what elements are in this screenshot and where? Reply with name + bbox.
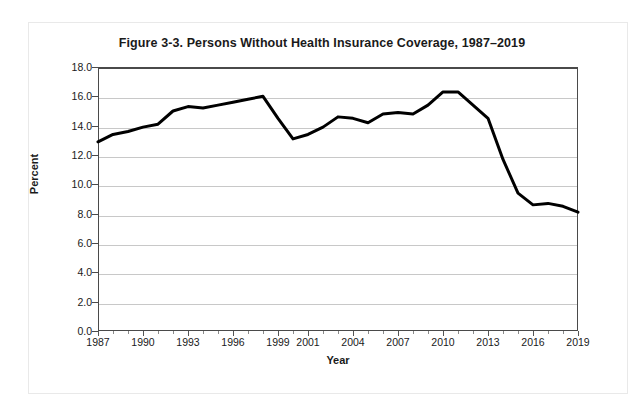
x-axis-tick-label: 2007 <box>374 336 422 348</box>
x-axis-tick-label: 2004 <box>329 336 377 348</box>
x-axis-tick-label: 1996 <box>209 336 257 348</box>
x-axis-minor-tick-mark <box>158 331 159 334</box>
x-axis-tick-label: 2019 <box>554 336 602 348</box>
x-axis-tick-label: 2013 <box>464 336 512 348</box>
y-axis-tick-label: 4.0 <box>52 266 92 278</box>
x-axis-minor-tick-mark <box>383 331 384 334</box>
data-series-line <box>98 67 578 331</box>
x-axis-tick-label: 2001 <box>284 336 332 348</box>
x-axis-tick-label: 1993 <box>164 336 212 348</box>
x-axis-minor-tick-mark <box>338 331 339 334</box>
x-axis-minor-tick-mark <box>323 331 324 334</box>
x-axis-minor-tick-mark <box>203 331 204 334</box>
y-axis-tick-label: 8.0 <box>52 208 92 220</box>
y-axis-tick-label: 12.0 <box>52 149 92 161</box>
x-axis-tick-label: 1990 <box>119 336 167 348</box>
x-axis-minor-tick-mark <box>248 331 249 334</box>
y-axis-tick-label: 10.0 <box>52 178 92 190</box>
x-axis-tick-label: 2016 <box>509 336 557 348</box>
x-axis-minor-tick-mark <box>518 331 519 334</box>
y-axis-tick-label: 2.0 <box>52 296 92 308</box>
x-axis-minor-tick-mark <box>113 331 114 334</box>
x-axis-minor-tick-mark <box>368 331 369 334</box>
x-axis-minor-tick-mark <box>263 331 264 334</box>
chart-title: Figure 3-3. Persons Without Health Insur… <box>0 36 644 50</box>
x-axis-minor-tick-mark <box>218 331 219 334</box>
x-axis-minor-tick-mark <box>458 331 459 334</box>
x-axis-minor-tick-mark <box>503 331 504 334</box>
x-axis-tick-label: 1987 <box>74 336 122 348</box>
x-axis-minor-tick-mark <box>563 331 564 334</box>
series-polyline <box>98 92 578 212</box>
x-axis-minor-tick-mark <box>293 331 294 334</box>
x-axis-minor-tick-mark <box>128 331 129 334</box>
y-axis-title: Percent <box>28 134 40 214</box>
y-axis-tick-label: 6.0 <box>52 237 92 249</box>
y-axis-tick-label: 18.0 <box>52 61 92 73</box>
y-axis-tick-label: 16.0 <box>52 90 92 102</box>
x-axis-minor-tick-mark <box>413 331 414 334</box>
x-axis-minor-tick-mark <box>428 331 429 334</box>
x-axis-minor-tick-mark <box>473 331 474 334</box>
x-axis-title: Year <box>98 354 578 366</box>
x-axis-tick-label: 2010 <box>419 336 467 348</box>
x-axis-minor-tick-mark <box>173 331 174 334</box>
figure-page: Figure 3-3. Persons Without Health Insur… <box>0 0 644 402</box>
x-axis-minor-tick-mark <box>548 331 549 334</box>
y-axis-tick-label: 14.0 <box>52 120 92 132</box>
